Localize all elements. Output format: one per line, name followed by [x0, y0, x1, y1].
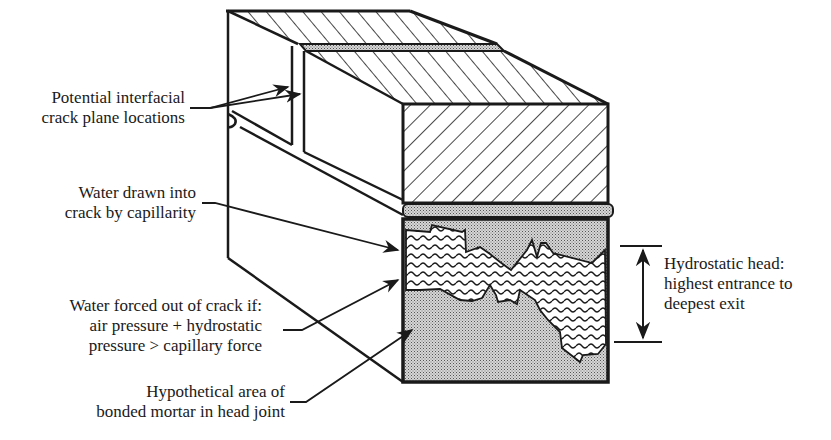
- label-hydrostatic-head-line2: highest entrance to: [664, 274, 829, 294]
- label-forced-out-line3: pressure > capillary force: [10, 336, 262, 356]
- front-brick-face: [403, 104, 608, 203]
- label-bonded-mortar-line2: bonded mortar in head joint: [20, 402, 285, 422]
- top-brick-upper: [226, 11, 497, 44]
- label-capillarity-line1: Water drawn into: [20, 183, 196, 203]
- label-capillarity-line2: crack by capillarity: [20, 203, 196, 223]
- label-crack-planes-line1: Potential interfacial: [10, 88, 185, 108]
- label-hydrostatic-head: Hydrostatic head: highest entrance to de…: [664, 254, 829, 314]
- leader-crack-planes: [190, 87, 300, 108]
- bed-joint-mortar: [403, 204, 613, 217]
- top-mortar-strip: [300, 44, 504, 51]
- hydrostatic-head-dimension: [614, 246, 662, 342]
- label-bonded-mortar: Hypothetical area of bonded mortar in he…: [20, 382, 285, 422]
- label-crack-planes-line2: crack plane locations: [10, 108, 185, 128]
- label-forced-out: Water forced out of crack if: air pressu…: [10, 296, 262, 356]
- head-joint: [403, 219, 608, 382]
- label-forced-out-line2: air pressure + hydrostatic: [10, 316, 262, 336]
- label-forced-out-line1: Water forced out of crack if:: [10, 296, 262, 316]
- label-bonded-mortar-line1: Hypothetical area of: [20, 382, 285, 402]
- leader-capillarity: [202, 203, 398, 250]
- top-brick-lower: [306, 51, 608, 104]
- leader-bonded-mortar: [290, 330, 412, 402]
- label-capillarity: Water drawn into crack by capillarity: [20, 183, 196, 223]
- leader-forced-out: [283, 280, 398, 330]
- label-hydrostatic-head-line1: Hydrostatic head:: [664, 254, 829, 274]
- label-hydrostatic-head-line3: deepest exit: [664, 294, 829, 314]
- label-crack-planes: Potential interfacial crack plane locati…: [10, 88, 185, 128]
